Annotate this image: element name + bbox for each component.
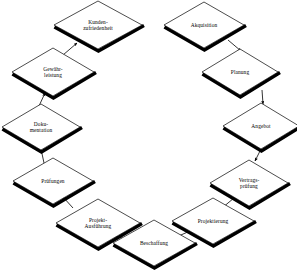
- diagram-canvas: [0, 0, 297, 271]
- node-layer: [2, 1, 297, 266]
- process-cycle-diagram: Kunden- zufriedenheitAkquisitionPlanungA…: [0, 0, 297, 271]
- node-angebot[interactable]: [223, 103, 297, 149]
- arrow-gewaehrleistung-to-kundenzufriedenheit: [63, 43, 77, 55]
- node-gewaehrleistung[interactable]: [12, 48, 94, 96]
- arrow-dokumentation-to-gewaehrleistung: [39, 93, 45, 106]
- node-planung[interactable]: [202, 49, 278, 95]
- node-vertragspruefung[interactable]: [210, 160, 288, 206]
- node-kundenzufriedenheit[interactable]: [54, 1, 142, 49]
- node-pruefungen[interactable]: [13, 158, 93, 204]
- node-dokumentation[interactable]: [2, 104, 80, 150]
- arrow-planung-to-angebot: [262, 90, 263, 104]
- node-akquisition[interactable]: [164, 2, 244, 48]
